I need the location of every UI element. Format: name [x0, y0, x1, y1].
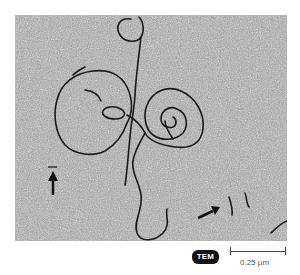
micrograph-image: [15, 15, 287, 241]
scale-bar: [230, 247, 286, 255]
scale-bar-tick-right: [285, 247, 286, 255]
tem-badge: TEM: [192, 250, 219, 264]
scale-bar-line: [230, 251, 286, 252]
micrograph-svg: [15, 15, 287, 241]
tem-figure: TEM 0.25 μm: [0, 0, 300, 275]
noise-background: [15, 15, 287, 241]
scale-bar-tick-left: [230, 247, 231, 255]
scale-bar-label: 0.25 μm: [240, 258, 269, 267]
